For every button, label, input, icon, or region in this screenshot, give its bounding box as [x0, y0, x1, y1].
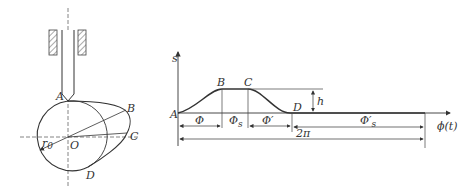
phi-axis-label: ϕ(t): [437, 120, 458, 133]
h-label: h: [317, 95, 324, 108]
radius-line-B: [68, 110, 126, 137]
cam-mechanism: A B C D O r0: [20, 8, 140, 188]
point-D: D: [292, 101, 302, 114]
phi-label: Φ: [195, 114, 204, 127]
point-C: C: [244, 76, 253, 89]
two-pi-label: 2π: [295, 127, 311, 140]
label-B: B: [126, 102, 135, 115]
guide-block-left: [49, 30, 57, 55]
point-A: A: [169, 108, 178, 121]
phi-prime-label: Φ′: [262, 114, 274, 127]
label-O: O: [70, 139, 79, 152]
cam-mechanism-figure: A B C D O r0 s ϕ(t) h A B C D Φ Φs: [0, 0, 470, 191]
label-C: C: [130, 130, 139, 143]
s-axis-label: s: [172, 52, 178, 65]
phi-s-label: Φs: [229, 114, 243, 129]
label-D: D: [85, 169, 95, 182]
phi-s-prime-label: Φ′s: [360, 114, 377, 129]
label-r0: r0: [42, 137, 53, 151]
label-A: A: [55, 90, 64, 103]
point-B: B: [216, 76, 225, 89]
radius-line-C: [68, 133, 127, 137]
displacement-diagram: s ϕ(t) h A B C D Φ Φs Φ′ Φ′s 2π: [169, 52, 458, 148]
guide-block-right: [78, 30, 86, 55]
